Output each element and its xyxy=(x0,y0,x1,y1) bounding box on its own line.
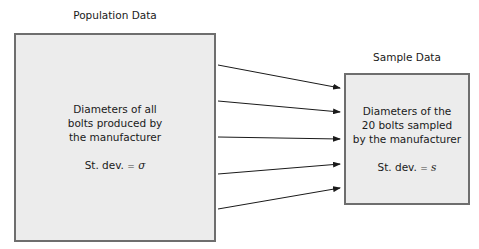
arrow-icon xyxy=(218,137,340,139)
arrow-icon xyxy=(218,188,340,209)
arrow-icon xyxy=(218,164,340,174)
arrow-icon xyxy=(218,65,340,88)
sampling-arrows xyxy=(0,0,479,249)
arrow-icon xyxy=(218,101,340,112)
